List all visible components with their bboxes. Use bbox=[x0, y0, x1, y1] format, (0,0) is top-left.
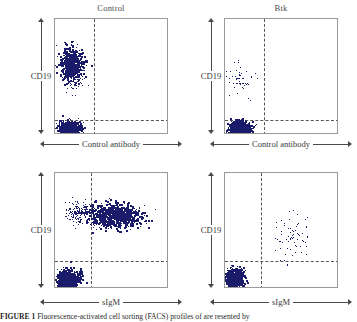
data-point bbox=[114, 214, 115, 215]
data-point bbox=[230, 283, 231, 284]
data-point bbox=[243, 88, 244, 89]
scatter-plot-control-sigm[interactable] bbox=[54, 172, 168, 288]
data-point bbox=[238, 60, 239, 61]
y-axis-control-bottom: CD19 bbox=[30, 172, 52, 288]
data-point bbox=[238, 62, 239, 63]
data-point bbox=[75, 283, 76, 284]
data-point bbox=[71, 212, 72, 213]
data-point bbox=[70, 261, 72, 263]
data-point bbox=[72, 95, 73, 96]
data-point bbox=[77, 74, 79, 76]
data-point bbox=[277, 239, 278, 240]
y-axis-control-top: CD19 bbox=[30, 18, 52, 134]
data-point bbox=[136, 219, 138, 221]
data-point bbox=[228, 130, 229, 131]
data-point bbox=[82, 128, 84, 130]
data-point bbox=[66, 209, 67, 210]
data-point bbox=[231, 284, 232, 285]
data-point bbox=[77, 56, 78, 57]
data-point bbox=[235, 76, 236, 77]
data-point bbox=[140, 223, 142, 225]
data-point bbox=[117, 211, 118, 212]
arrow-right-icon bbox=[348, 141, 352, 147]
data-point bbox=[68, 215, 69, 216]
data-point bbox=[70, 51, 72, 53]
data-point bbox=[239, 78, 240, 79]
data-point bbox=[69, 219, 70, 220]
data-point bbox=[78, 81, 79, 82]
data-point bbox=[297, 239, 298, 240]
data-point bbox=[71, 274, 73, 276]
y-axis-btk-bottom: CD19 bbox=[200, 172, 222, 288]
data-point bbox=[281, 231, 282, 232]
data-point bbox=[232, 278, 234, 280]
data-point bbox=[87, 60, 88, 61]
data-point bbox=[110, 209, 111, 210]
data-point bbox=[121, 225, 122, 226]
data-point bbox=[97, 207, 99, 209]
data-point bbox=[87, 206, 88, 207]
data-point bbox=[71, 84, 72, 85]
data-point bbox=[83, 207, 84, 208]
data-point bbox=[240, 131, 242, 133]
data-point bbox=[96, 202, 97, 203]
data-point bbox=[60, 120, 62, 122]
data-point bbox=[146, 221, 147, 222]
data-point bbox=[120, 220, 122, 222]
data-point bbox=[120, 209, 121, 210]
data-point bbox=[243, 83, 244, 84]
data-point bbox=[78, 203, 79, 204]
data-point bbox=[242, 83, 243, 84]
data-point bbox=[148, 220, 150, 222]
data-point bbox=[116, 220, 118, 222]
data-point bbox=[242, 128, 243, 129]
data-point bbox=[72, 213, 73, 214]
data-point bbox=[295, 252, 296, 253]
data-point bbox=[231, 128, 233, 130]
data-point bbox=[245, 125, 246, 126]
data-point bbox=[108, 204, 109, 205]
data-point bbox=[108, 222, 110, 224]
data-point bbox=[226, 71, 227, 72]
scatter-plot-control-control-antibody[interactable] bbox=[54, 18, 168, 134]
data-point bbox=[85, 199, 86, 200]
scatter-plot-btk-sigm[interactable] bbox=[224, 172, 338, 288]
data-point bbox=[83, 202, 84, 203]
data-point bbox=[108, 228, 109, 229]
data-point bbox=[126, 221, 127, 222]
x-axis-label: Control antibody bbox=[249, 140, 313, 149]
data-point bbox=[132, 225, 134, 227]
data-point bbox=[60, 75, 62, 77]
data-point bbox=[246, 128, 247, 129]
data-point bbox=[73, 69, 74, 70]
data-point bbox=[109, 198, 110, 199]
data-point bbox=[243, 267, 245, 269]
data-point bbox=[88, 211, 89, 212]
data-point bbox=[87, 219, 88, 220]
data-point bbox=[78, 218, 79, 219]
data-point bbox=[235, 268, 236, 269]
data-point bbox=[83, 64, 84, 65]
arrow-down-icon bbox=[208, 284, 214, 288]
data-point bbox=[76, 47, 77, 48]
data-point bbox=[80, 125, 81, 126]
data-point bbox=[82, 279, 84, 281]
data-point bbox=[59, 123, 60, 124]
data-point bbox=[66, 57, 67, 58]
data-point bbox=[70, 85, 71, 86]
scatter-plot-btk-control-antibody[interactable] bbox=[224, 18, 338, 134]
data-point bbox=[250, 130, 252, 132]
data-point bbox=[292, 235, 293, 236]
data-point bbox=[74, 84, 76, 86]
data-point bbox=[68, 62, 69, 63]
data-point bbox=[251, 77, 252, 78]
data-point bbox=[243, 78, 244, 79]
data-point bbox=[240, 283, 242, 285]
data-point bbox=[155, 209, 156, 210]
y-axis-btk-top: CD19 bbox=[200, 18, 222, 134]
data-point bbox=[68, 75, 69, 76]
data-point bbox=[297, 214, 298, 215]
data-point bbox=[105, 230, 107, 232]
data-point bbox=[119, 209, 121, 211]
data-point bbox=[71, 214, 72, 215]
